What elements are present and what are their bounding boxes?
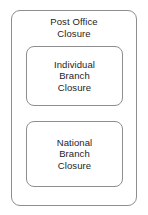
inner-box-individual-branch-closure-label: Individual Branch Closure (54, 59, 95, 94)
inner-box-national-branch-closure: National Branch Closure (26, 121, 123, 187)
inner-box-individual-branch-closure: Individual Branch Closure (26, 46, 123, 106)
outer-box-label: Post Office Closure (12, 16, 136, 39)
outer-box-post-office-closure: Post Office Closure Individual Branch Cl… (11, 10, 137, 206)
inner-box-national-branch-closure-label: National Branch Closure (57, 137, 93, 172)
diagram-canvas: Post Office Closure Individual Branch Cl… (0, 0, 148, 215)
